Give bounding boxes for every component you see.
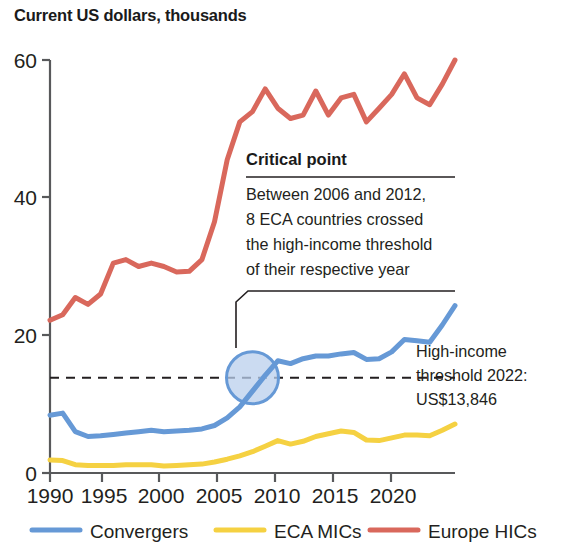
x-tick-label-1990: 1990 (27, 484, 74, 507)
chart-legend: Convergers ECA MICs Europe HICs (32, 521, 537, 542)
y-tick-label-60: 60 (14, 49, 37, 72)
x-tick-label-2015: 2015 (312, 484, 359, 507)
x-tick-label-1995: 1995 (81, 484, 128, 507)
critical-point-annotation: Critical point Between 2006 and 2012, 8 … (246, 150, 455, 278)
annotation-heading: Critical point (246, 150, 347, 168)
y-tick-label-40: 40 (14, 186, 37, 209)
critical-point-highlight-circle (227, 352, 279, 404)
x-tick-label-2010: 2010 (254, 484, 301, 507)
chart-figure: Current US dollars, thousands 60 40 20 0 (0, 0, 568, 545)
x-axis-ticks (50, 473, 391, 482)
annotation-line-3: the high-income threshold (246, 235, 432, 253)
legend-label-convergers: Convergers (90, 521, 188, 542)
legend-label-eca-mics: ECA MICs (274, 521, 362, 542)
x-tick-label-2020: 2020 (370, 484, 417, 507)
threshold-label-line-1: High-income (416, 342, 507, 360)
legend-label-europe-hics: Europe HICs (428, 521, 537, 542)
annotation-line-1: Between 2006 and 2012, (246, 185, 426, 203)
annotation-line-2: 8 ECA countries crossed (246, 210, 423, 228)
x-tick-label-2005: 2005 (196, 484, 243, 507)
x-tick-label-2000: 2000 (138, 484, 185, 507)
annotation-line-4: of their respective year (246, 260, 410, 278)
y-axis-ticks (42, 60, 50, 473)
threshold-label: High-income threshold 2022: US$13,846 (416, 342, 528, 408)
line-chart-svg: 60 40 20 0 1990 1995 2000 2005 2010 2015… (0, 0, 568, 545)
y-tick-label-20: 20 (14, 324, 37, 347)
series-line-eca-mics (50, 424, 455, 466)
threshold-label-line-3: US$13,846 (416, 390, 497, 408)
threshold-label-line-2: threshold 2022: (416, 366, 528, 384)
y-tick-label-0: 0 (25, 462, 37, 485)
